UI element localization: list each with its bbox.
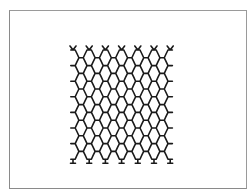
net-mesh-diagram — [0, 0, 250, 195]
net-strands — [70, 46, 173, 163]
